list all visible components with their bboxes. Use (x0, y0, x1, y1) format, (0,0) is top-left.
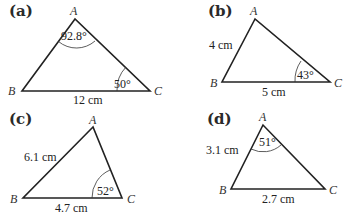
vertex-C-c: C (127, 192, 136, 206)
side-AB-d: 3.1 cm (206, 143, 239, 157)
figure-d: (d) A B C 51° 3.1 cm 2.7 cm (206, 110, 338, 206)
vertex-C-b: C (334, 76, 343, 90)
vertex-A-a: A (69, 4, 78, 18)
angle-C-b: 43° (297, 68, 314, 82)
side-AB-c: 6.1 cm (24, 150, 57, 164)
vertex-A-c: A (88, 113, 97, 127)
part-label-c: (c) (9, 110, 32, 128)
figure-b: (b) A B C 4 cm 43° 5 cm (208, 2, 343, 99)
side-BC-b: 5 cm (262, 85, 286, 99)
triangle-diagrams: (a) A B C 92.8° 50° 12 cm (b) A B C 4 cm… (0, 0, 356, 217)
triangle-d (231, 125, 325, 189)
vertex-B-a: B (8, 84, 16, 98)
angle-C-c: 52° (97, 184, 114, 198)
angle-A-a: 92.8° (61, 29, 87, 43)
figure-c: (c) A B C 6.1 cm 52° 4.7 cm (9, 110, 136, 215)
part-label-b: (b) (208, 2, 233, 20)
vertex-B-c: B (10, 192, 18, 206)
part-label-a: (a) (9, 2, 33, 20)
vertex-A-b: A (249, 4, 258, 18)
vertex-B-b: B (210, 76, 218, 90)
side-BC-c: 4.7 cm (55, 201, 88, 215)
vertex-C-a: C (154, 84, 163, 98)
vertex-A-d: A (258, 110, 267, 124)
angle-C-a: 50° (114, 77, 131, 91)
side-BC-a: 12 cm (73, 93, 103, 107)
part-label-d: (d) (207, 110, 232, 128)
vertex-C-d: C (329, 183, 338, 197)
side-AB-b: 4 cm (209, 38, 233, 52)
side-BC-d: 2.7 cm (262, 192, 295, 206)
angle-A-d: 51° (259, 135, 276, 149)
vertex-B-d: B (219, 183, 227, 197)
figure-a: (a) A B C 92.8° 50° 12 cm (8, 2, 163, 107)
